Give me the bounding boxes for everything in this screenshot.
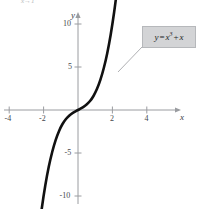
y-tick-label-neg10: -10: [60, 192, 71, 200]
equation-equals: =: [158, 32, 165, 42]
callout-leader-line: [118, 47, 142, 72]
x-tick-label-4: 4: [145, 115, 149, 123]
x-tick-label-2: 2: [110, 115, 114, 123]
y-tick-label-5: 5: [68, 63, 72, 71]
x-tick-label-neg2: -2: [39, 115, 46, 123]
y-tick-label-10: 10: [63, 20, 71, 28]
y-tick-label-neg5: -5: [65, 149, 72, 157]
y-axis-name: y: [71, 11, 75, 20]
equation-callout-text: y=x3+x: [154, 33, 183, 42]
equation-callout-box: y=x3+x: [142, 26, 196, 48]
equation-plus: +: [173, 32, 180, 42]
function-graph-figure: x→1: [0, 0, 197, 209]
x-axis-name: x: [180, 113, 184, 122]
x-axis: [4, 107, 176, 114]
x-tick-label-neg4: -4: [5, 115, 12, 123]
equation-tail: x: [180, 32, 184, 42]
